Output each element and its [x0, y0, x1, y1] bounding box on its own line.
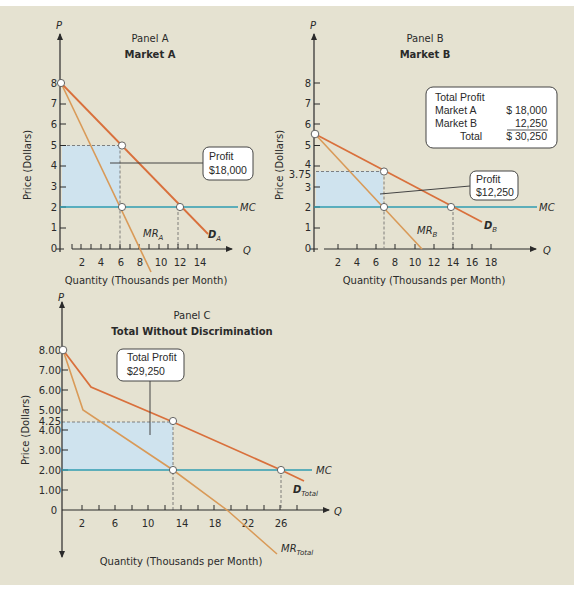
profit-box-a-line2: $18,000: [209, 164, 247, 176]
table-row-label: Total: [460, 130, 482, 142]
x-axis-symbol-a: Q: [243, 245, 251, 256]
y-tick-label: 5: [305, 140, 311, 151]
point-marker: [169, 466, 176, 473]
y-tick-label: 6: [305, 119, 311, 130]
y-tick-label: 5: [51, 140, 57, 151]
y-axis-symbol-c: P: [58, 292, 65, 303]
y-tick-label: 4: [51, 160, 57, 171]
panel-c: 0 1.00 2.00 3.00 4.00 4.25 5.00 6.00 7.0…: [20, 292, 342, 567]
panel-a: 0 1 2 3 4 5 6 7 8 2 4 6 8 10 12 14 MC: [22, 20, 256, 286]
y-tick-label: 1: [51, 222, 57, 233]
y-tick-label: 5.00: [39, 405, 61, 416]
y-tick-label: 3: [51, 181, 57, 192]
x-tick-label: 2: [79, 518, 85, 529]
point-marker: [118, 142, 125, 149]
mc-label-c: MC: [316, 465, 332, 476]
y-tick-label: 6: [51, 119, 57, 130]
x-tick-label: 6: [118, 257, 124, 268]
x-tick-label: 12: [428, 257, 441, 268]
y-axis-label-c: Price (Dollars): [20, 395, 31, 465]
y-tick-label: 7: [305, 98, 311, 109]
table-row-value: $ 18,000: [506, 104, 547, 116]
panel-b-label: Panel B: [406, 33, 443, 44]
x-tick-label: 14: [176, 518, 189, 529]
mc-label-a: MC: [240, 202, 256, 213]
y-axis-symbol-b: P: [310, 20, 317, 31]
x-tick-label: 12: [174, 257, 187, 268]
total-profit-table: Total Profit Market A $ 18,000 Market B …: [426, 87, 557, 148]
x-axis-label-a: Quantity (Thousands per Month): [65, 275, 228, 286]
mr-label-c: MRTotal: [281, 543, 313, 557]
table-row-value: $ 30,250: [506, 130, 547, 142]
demand-label-c: DTotal: [293, 484, 318, 498]
panel-b-title: Market B: [400, 49, 451, 60]
profit-box-c-line2: $29,250: [127, 365, 165, 377]
panel-a-label: Panel A: [132, 33, 169, 44]
point-marker: [169, 417, 176, 424]
demand-label-a: DA: [208, 229, 221, 243]
x-tick-label: 4: [98, 257, 104, 268]
x-tick-label: 8: [137, 257, 143, 268]
profit-area-a: [62, 146, 120, 208]
y-tick-label: 0: [305, 243, 311, 254]
x-axis-symbol-c: Q: [334, 506, 342, 517]
y-tick-label: 1.00: [39, 485, 61, 496]
x-tick-label: 26: [275, 518, 288, 529]
x-tick-label: 14: [194, 257, 207, 268]
y-tick-label: 2: [305, 202, 311, 213]
point-marker: [380, 168, 387, 175]
y-tick-label: 2: [51, 202, 57, 213]
x-tick-label: 18: [209, 518, 222, 529]
table-heading: Total Profit: [435, 91, 485, 103]
y-tick-label: 1: [305, 222, 311, 233]
x-axis-label-b: Quantity (Thousands per Month): [343, 275, 506, 286]
x-tick-label: 16: [466, 257, 479, 268]
point-marker: [59, 346, 67, 354]
y-tick-label: 4.25: [39, 416, 61, 427]
profit-box-b-line1: Profit: [476, 173, 501, 185]
x-tick-label: 18: [485, 257, 498, 268]
y-tick-label: 8.00: [39, 345, 61, 356]
y-tick-label: 3.00: [39, 445, 61, 456]
y-tick-label: 7.00: [39, 365, 61, 376]
x-tick-label: 6: [373, 257, 379, 268]
y-axis-symbol-a: P: [56, 20, 63, 31]
demand-label-b: DB: [484, 220, 497, 234]
x-tick-label: 10: [155, 257, 168, 268]
y-tick-label: 8: [51, 78, 57, 89]
profit-area-b: [316, 171, 383, 207]
point-marker: [447, 203, 454, 210]
mr-label-b: MRB: [417, 225, 438, 239]
y-tick-label: 7: [51, 98, 57, 109]
point-marker: [380, 203, 387, 210]
y-tick-label: 6.00: [39, 385, 61, 396]
y-tick-label: 0: [51, 505, 57, 516]
y-tick-label: 3.75: [289, 169, 311, 180]
x-tick-label: 4: [354, 257, 360, 268]
mc-label-b: MC: [539, 202, 555, 213]
table-row-value: 12,250: [515, 117, 547, 129]
point-marker: [57, 79, 64, 86]
chart-canvas: 0 1 2 3 4 5 6 7 8 2 4 6 8 10 12 14 MC: [0, 0, 578, 590]
profit-area-c: [62, 422, 173, 470]
x-axis-symbol-b: Q: [543, 245, 551, 256]
x-tick-label: 6: [112, 518, 118, 529]
x-tick-label: 2: [335, 257, 341, 268]
y-axis-label-b: Price (Dollars): [274, 130, 285, 200]
point-marker: [176, 203, 183, 210]
x-tick-label: 2: [79, 257, 85, 268]
x-tick-label: 10: [409, 257, 422, 268]
table-row-label: Market B: [435, 117, 477, 129]
panel-a-title: Market A: [125, 49, 176, 60]
x-tick-label: 10: [142, 518, 155, 529]
x-axis-label-c: Quantity (Thousands per Month): [100, 556, 263, 567]
point-marker: [311, 130, 319, 138]
table-row-label: Market A: [435, 104, 476, 116]
x-tick-label: 14: [447, 257, 460, 268]
profit-box-b-line2: $12,250: [476, 186, 514, 198]
y-axis-label-a: Price (Dollars): [22, 130, 33, 200]
y-tick-label: 8: [305, 78, 311, 89]
point-marker: [277, 466, 284, 473]
y-tick-label: 4: [305, 159, 311, 170]
y-tick-label: 2.00: [39, 465, 61, 476]
